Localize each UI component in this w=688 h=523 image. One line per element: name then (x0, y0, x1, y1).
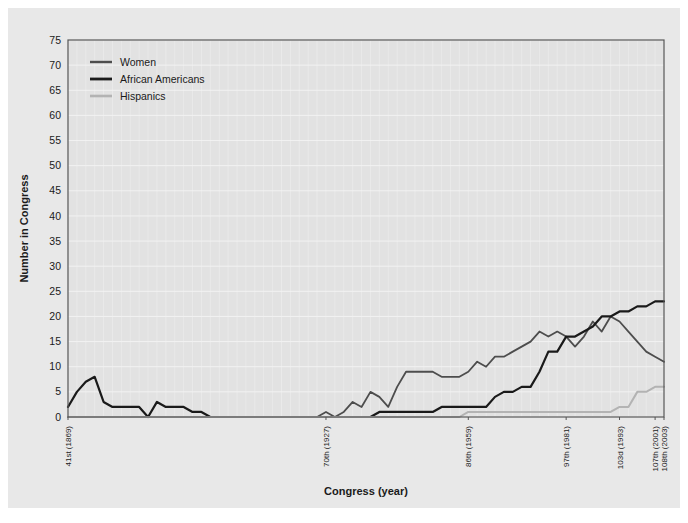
y-tick-label: 20 (49, 310, 61, 322)
chart-figure: 051015202530354045505560657075 41st (186… (8, 8, 680, 508)
y-tick-label: 60 (49, 109, 61, 121)
y-tick-label: 10 (49, 360, 61, 372)
x-axis-title: Congress (year) (324, 485, 408, 497)
y-axis-tick-labels: 051015202530354045505560657075 (49, 34, 61, 423)
y-tick-label: 30 (49, 260, 61, 272)
x-tick-label: 108th (2003) (660, 426, 669, 472)
y-tick-label: 15 (49, 335, 61, 347)
y-axis-title: Number in Congress (18, 174, 30, 282)
legend-label-hispanics: Hispanics (120, 90, 166, 102)
x-tick-label: 103d (1993) (616, 426, 625, 469)
y-tick-label: 50 (49, 159, 61, 171)
x-tick-label: 107th (2001) (651, 426, 660, 472)
x-tick-label: 86th (1959) (464, 426, 473, 467)
y-tick-label: 40 (49, 210, 61, 222)
y-tick-label: 5 (55, 385, 61, 397)
x-tick-label: 70th (1927) (322, 426, 331, 467)
y-tick-label: 70 (49, 59, 61, 71)
y-tick-label: 55 (49, 134, 61, 146)
x-tick-label: 97th (1981) (562, 426, 571, 467)
legend-label-african-americans: African Americans (120, 73, 205, 85)
congress-demographics-line-chart: 051015202530354045505560657075 41st (186… (8, 8, 680, 508)
y-tick-label: 25 (49, 285, 61, 297)
x-axis-tick-labels: 41st (1869)70th (1927)86th (1959)97th (1… (64, 417, 669, 471)
x-tick-label: 41st (1869) (64, 426, 73, 467)
y-tick-label: 45 (49, 184, 61, 196)
y-tick-label: 35 (49, 235, 61, 247)
y-tick-label: 0 (55, 411, 61, 423)
legend-label-women: Women (120, 56, 156, 68)
y-tick-label: 65 (49, 84, 61, 96)
y-tick-label: 75 (49, 34, 61, 46)
